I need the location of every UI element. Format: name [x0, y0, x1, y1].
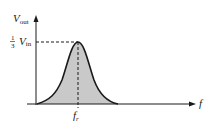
- x-axis-label: f: [199, 97, 204, 109]
- center-frequency-label: fr: [73, 109, 79, 123]
- y-axis-arrow-icon: [34, 15, 39, 22]
- frequency-response-diagram: Vout 1 3 Vin f fr: [0, 0, 211, 132]
- fraction-numerator: 1: [11, 34, 15, 42]
- peak-value-label: Vin: [19, 35, 32, 48]
- y-axis-label: Vout: [13, 12, 29, 26]
- x-axis-arrow-icon: [189, 102, 196, 107]
- fraction-denominator: 3: [11, 42, 15, 50]
